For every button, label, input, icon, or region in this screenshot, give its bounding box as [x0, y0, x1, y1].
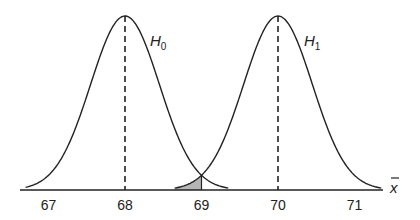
x-tick-label: 67 [41, 197, 57, 213]
h0-curve [26, 16, 229, 188]
x-tick-label: 68 [117, 197, 133, 213]
x-axis-label: x [389, 179, 398, 196]
h0-label: H0 [150, 32, 167, 52]
x-tick-label: 69 [194, 197, 210, 213]
x-tick-label: 71 [347, 197, 363, 213]
h1-label: H1 [304, 32, 321, 52]
hypothesis-distributions-chart: 6768697071 H0 H1 x [0, 0, 420, 220]
x-tick-label: 70 [270, 197, 286, 213]
x-axis-ticks: 6768697071 [41, 197, 363, 213]
